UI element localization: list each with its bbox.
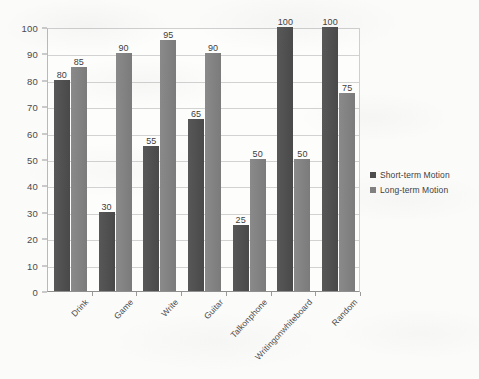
y-axis: 1009080706050403020100 [0, 28, 47, 292]
bar-short-term [54, 80, 70, 291]
bar-long-term [160, 40, 176, 291]
y-axis-tick-label: 80 [27, 75, 38, 86]
bar-long-term [205, 53, 221, 291]
gridline [48, 55, 359, 56]
gridline [48, 108, 359, 109]
x-axis-label-game: Game [112, 297, 135, 321]
y-axis-tick-label: 30 [27, 207, 38, 218]
gridline [48, 82, 359, 83]
y-axis-tick-label: 50 [27, 155, 38, 166]
bar-long-term [71, 67, 87, 291]
bar-short-term [143, 146, 159, 291]
bar-long-term [294, 159, 310, 291]
bar-value-label: 85 [74, 57, 84, 67]
y-axis-tick-label: 100 [22, 23, 38, 34]
bar-value-label: 30 [101, 202, 111, 212]
x-axis-tick-mark [315, 292, 316, 296]
plot-area: 808530905595659025501005010075 [47, 28, 360, 292]
bar-long-term [250, 159, 266, 291]
x-axis-tick-mark [226, 292, 227, 296]
x-axis-tick-mark [136, 292, 137, 296]
bar-long-term [339, 93, 355, 291]
legend-label: Long-term Motion [380, 185, 448, 195]
x-axis-label-talkonphone: Talkonphone [229, 297, 270, 340]
bar-short-term [277, 27, 293, 291]
bar-value-label: 95 [163, 30, 173, 40]
x-axis-label-write: Write [159, 297, 180, 319]
y-axis-tick-label: 60 [27, 128, 38, 139]
bar-short-term [233, 225, 249, 291]
bar-value-label: 90 [118, 43, 128, 53]
legend-item-short-term-motion: Short-term Motion [370, 170, 475, 180]
bar-short-term [322, 27, 338, 291]
x-axis-label-drink: Drink [69, 297, 90, 319]
legend-label: Short-term Motion [380, 170, 450, 180]
bar-value-label: 100 [322, 17, 337, 27]
bar-short-term [188, 119, 204, 291]
bar-value-label: 65 [191, 109, 201, 119]
legend-swatch-icon [370, 172, 376, 178]
x-axis-label-random: Random [329, 297, 359, 328]
legend-swatch-icon [370, 187, 376, 193]
bar-value-label: 80 [57, 70, 67, 80]
bar-value-label: 25 [236, 215, 246, 225]
bar-value-label: 55 [146, 136, 156, 146]
y-axis-tick-label: 10 [27, 260, 38, 271]
bar-short-term [99, 212, 115, 291]
y-axis-tick-label: 70 [27, 102, 38, 113]
bar-value-label: 50 [253, 149, 263, 159]
bar-value-label: 50 [297, 149, 307, 159]
x-axis-label-guitar: Guitar [201, 297, 225, 321]
x-axis-tick-mark [271, 292, 272, 296]
y-axis-tick-label: 40 [27, 181, 38, 192]
bar-value-label: 90 [208, 43, 218, 53]
y-axis-tick-label: 0 [33, 287, 38, 298]
legend-item-long-term-motion: Long-term Motion [370, 185, 475, 195]
x-axis-tick-mark [92, 292, 93, 296]
y-axis-tick-label: 20 [27, 234, 38, 245]
x-axis-tick-mark [360, 292, 361, 296]
x-axis-category-labels: DrinkGameWriteGuitarTalkonphoneWritingon… [47, 294, 360, 379]
chart-legend: Short-term MotionLong-term Motion [370, 170, 475, 200]
grouped-bar-chart: 1009080706050403020100 80853090559565902… [0, 0, 479, 379]
y-axis-tick-label: 90 [27, 49, 38, 60]
bar-value-label: 75 [342, 83, 352, 93]
bar-long-term [116, 53, 132, 291]
bar-value-label: 100 [278, 17, 293, 27]
x-axis-tick-mark [181, 292, 182, 296]
